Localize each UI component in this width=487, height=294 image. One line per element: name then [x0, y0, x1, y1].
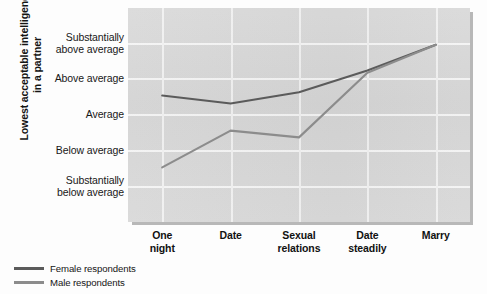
data-series-line: [162, 45, 436, 104]
data-series-line: [162, 45, 436, 168]
legend-item-label: Male respondents: [50, 277, 125, 288]
plot-area: [128, 8, 470, 222]
y-axis-tick-label: Above average: [42, 72, 124, 85]
x-axis-tick-labels: OnenightDateSexualrelationsDatesteadilyM…: [128, 229, 470, 257]
y-axis-tick-label: Below average: [42, 144, 124, 157]
y-axis-tick-label: Average: [42, 108, 124, 121]
line-chart-svg: [128, 8, 470, 222]
legend-line-swatch: [14, 281, 44, 284]
legend-item-label: Female respondents: [50, 263, 136, 274]
y-axis-tick-label: Substantiallybelow average: [42, 174, 124, 199]
x-axis-tick-label: Marry: [390, 229, 482, 242]
y-axis-tick-labels: Substantiallyabove averageAbove averageA…: [42, 8, 124, 222]
legend-item[interactable]: Male respondents: [14, 275, 224, 289]
legend-item[interactable]: Female respondents: [14, 261, 224, 275]
y-axis-title-line-1: Lowest acceptable intelligence: [18, 0, 31, 165]
chart-legend: Female respondentsMale respondents: [14, 261, 224, 289]
legend-line-swatch: [14, 267, 44, 270]
y-axis-tick-label: Substantiallyabove average: [42, 31, 124, 56]
